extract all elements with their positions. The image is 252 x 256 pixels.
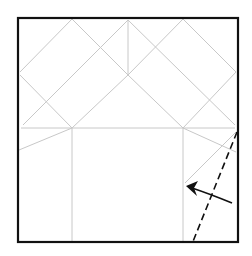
fold-arrow-icon [192,188,232,203]
crease-line [128,20,235,125]
arrowhead-icon [186,181,198,196]
crease-line [183,19,236,72]
crease-line [20,19,72,72]
fold-diagram-canvas [0,0,252,256]
valley-fold-dashed-line [192,132,237,244]
crease-line [72,75,128,128]
crease-line [128,75,183,128]
origami-diagram [0,0,252,256]
crease-line [19,128,72,150]
crease-line [72,19,128,75]
crease-line [185,132,236,183]
crease-lines [19,19,236,241]
crease-line [23,20,128,125]
crease-line [183,72,236,128]
